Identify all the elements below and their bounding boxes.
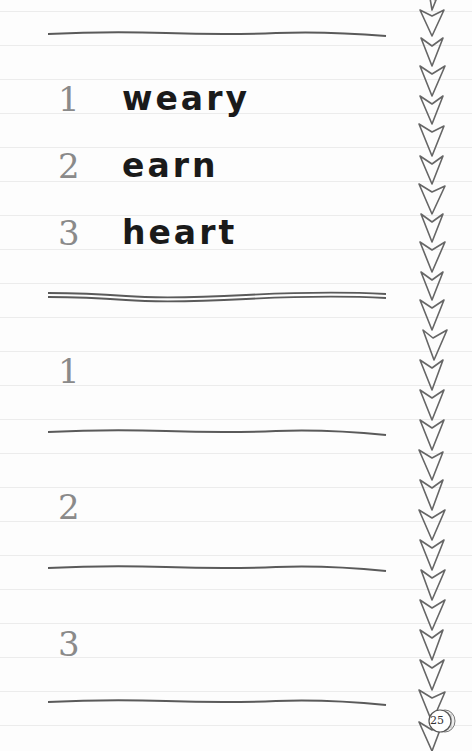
answer-number: 1 bbox=[58, 354, 80, 388]
top-divider-line bbox=[46, 30, 388, 38]
answer-field-3[interactable] bbox=[100, 622, 385, 692]
answer-line-3 bbox=[46, 698, 388, 706]
answer-field-2[interactable] bbox=[100, 486, 385, 556]
answer-field-1[interactable] bbox=[100, 350, 385, 420]
example-word: weary bbox=[122, 82, 250, 115]
double-divider-line bbox=[46, 290, 388, 304]
answer-line-2 bbox=[46, 564, 388, 572]
item-number: 2 bbox=[58, 149, 80, 183]
page-number: 25 bbox=[426, 714, 448, 727]
answer-number: 3 bbox=[58, 627, 80, 661]
answer-line-1 bbox=[46, 428, 388, 436]
item-number: 3 bbox=[58, 216, 80, 250]
answer-number: 2 bbox=[58, 490, 80, 524]
worksheet-page: 1 weary 2 earn 3 heart 1 2 3 bbox=[0, 0, 472, 751]
item-number: 1 bbox=[58, 82, 80, 116]
example-word: heart bbox=[122, 216, 237, 249]
chevron-arrow-border-icon bbox=[412, 0, 452, 751]
example-word: earn bbox=[122, 149, 218, 182]
